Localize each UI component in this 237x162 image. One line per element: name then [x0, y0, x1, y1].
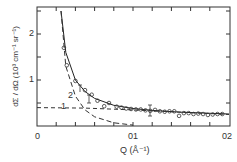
x-tick-label-0.1: 01 [128, 131, 138, 141]
x-axis-label: Q (Å⁻¹) [120, 145, 150, 155]
curve-2-dashed [61, 11, 133, 125]
curve-2-label: 2 [68, 90, 73, 100]
y-tick-label-2: 2 [29, 28, 34, 38]
data-markers [62, 46, 224, 118]
x-tick-label-0.2: 02 [222, 131, 232, 141]
total-fit-curve [61, 11, 229, 114]
x-tick-label-0: 0 [35, 131, 40, 141]
curve-1-label: 1 [61, 101, 66, 111]
y-tick-label-1: 1 [29, 74, 34, 84]
y-axis-label: dΣ / dΩ (10³ cm⁻¹ sr⁻¹) [11, 22, 20, 112]
